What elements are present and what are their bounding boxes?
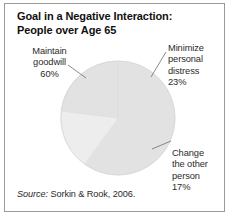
source-label: Source: — [17, 189, 48, 199]
pie-label-change-other-person: Change the other person 17% — [172, 148, 230, 194]
leader-line-distress — [151, 52, 166, 77]
source-note: Source: Sorkin & Rook, 2006. — [17, 189, 135, 199]
source-citation: Sorkin & Rook, 2006. — [48, 189, 135, 199]
figure-panel: Goal in a Negative Interaction: People o… — [0, 0, 235, 222]
pie-label-maintain-goodwill: Maintain goodwill 60% — [13, 46, 86, 80]
pie-label-minimize-distress: Minimize personal distress 23% — [168, 43, 230, 89]
